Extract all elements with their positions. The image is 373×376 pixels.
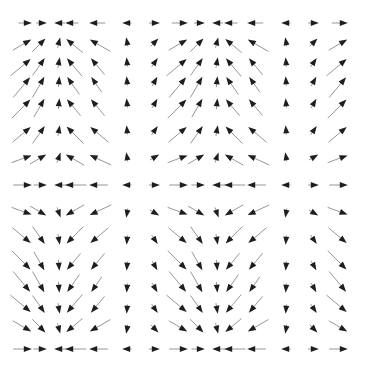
arrow-shaft <box>216 324 217 326</box>
arrow-shaft <box>58 45 59 47</box>
arrow-shaft <box>58 324 59 326</box>
arrow-shaft <box>216 45 217 47</box>
plot-background <box>0 0 373 376</box>
quiver-plot <box>0 0 373 376</box>
